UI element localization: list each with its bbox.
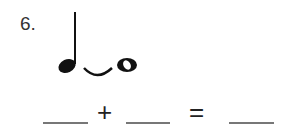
whole-note-icon [117,58,137,72]
equation-row: + = [0,100,282,130]
answer-blank-3[interactable] [229,122,274,124]
problem-number: 6. [20,13,36,35]
quarter-note-icon [56,12,78,76]
tie-icon [84,68,112,75]
plus-sign: + [97,97,112,127]
equals-sign: = [189,97,204,127]
tied-notes-figure [50,10,160,80]
answer-blank-1[interactable] [43,122,88,124]
answer-blank-2[interactable] [126,122,170,124]
